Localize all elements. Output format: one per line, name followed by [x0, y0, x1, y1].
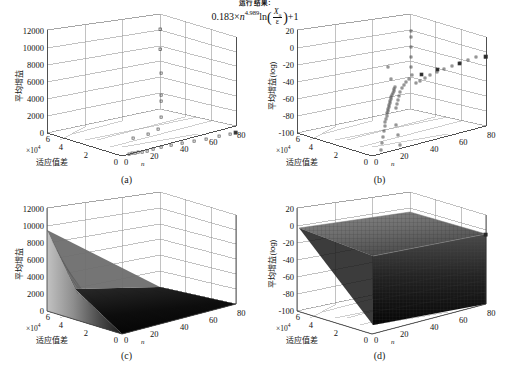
panel-a-caption: (a): [0, 174, 253, 185]
svg-text:6: 6: [46, 312, 50, 322]
svg-text:0: 0: [40, 306, 44, 316]
panel-d-ytick-labels: -100-80 -60-40 -200 20: [278, 204, 294, 316]
figure-root: 运行结果: 0.183×n4.989ln(X0ε)+1: [0, 0, 506, 366]
svg-text:60: 60: [209, 137, 218, 147]
svg-text:40: 40: [180, 144, 189, 154]
svg-text:2: 2: [334, 328, 338, 338]
svg-text:40: 40: [180, 322, 189, 332]
panel-b-mult-base: ×10: [276, 146, 288, 155]
svg-text:4000: 4000: [27, 94, 44, 104]
svg-text:6: 6: [46, 134, 50, 144]
svg-text:6: 6: [296, 312, 300, 322]
panel-c-caption: (c): [0, 350, 253, 361]
panel-b-ylabel: 平均增益(log): [266, 46, 277, 126]
svg-text:40: 40: [430, 322, 439, 332]
svg-text:60: 60: [459, 137, 468, 147]
panel-b-ytick-labels: -100-80 -60-40 -200 20: [278, 26, 294, 138]
panel-d-plot: -100-80 -60-40 -200 20 64 20 020 4060 80: [253, 190, 506, 350]
panel-c-ylabel: 平均增益: [13, 234, 24, 294]
panel-d: -100-80 -60-40 -200 20 64 20 020 4060 80…: [253, 190, 506, 366]
panel-a-ytick-labels: 02000 40006000 800010000 12000: [23, 26, 44, 138]
svg-text:0: 0: [124, 335, 128, 345]
panel-c-x-multiplier: ×104: [26, 322, 40, 333]
svg-text:0: 0: [374, 335, 378, 345]
panel-d-caption: (d): [253, 350, 506, 361]
panel-d-xlabel: 适应值差: [286, 334, 318, 345]
svg-text:20: 20: [150, 329, 159, 339]
svg-text:2: 2: [334, 150, 338, 160]
svg-text:2: 2: [84, 150, 88, 160]
svg-text:2000: 2000: [27, 289, 44, 299]
panel-a-zlabel: n: [141, 160, 145, 168]
svg-text:80: 80: [237, 308, 246, 318]
panel-b-xlabel: 适应值差: [286, 156, 318, 167]
panel-d-x-multiplier: ×104: [276, 322, 290, 333]
svg-text:-100: -100: [278, 306, 294, 316]
panel-b-mult-exp: 4: [288, 144, 291, 150]
svg-text:20: 20: [286, 26, 295, 36]
panel-b-plot: -100-80 -60-40 -200 20 64 20 020 4060 80: [253, 8, 506, 173]
svg-text:60: 60: [209, 315, 218, 325]
panel-c-mult-exp: 4: [38, 322, 41, 328]
svg-text:80: 80: [487, 130, 496, 140]
svg-text:40: 40: [430, 144, 439, 154]
svg-text:20: 20: [150, 151, 159, 161]
panel-a-ylabel: 平均增益: [13, 56, 24, 116]
panel-d-ylabel: 平均增益(log): [266, 224, 277, 304]
panel-a-xlabel: 适应值差: [36, 156, 68, 167]
svg-text:4: 4: [309, 320, 314, 330]
panel-b-zlabel: n: [391, 160, 395, 168]
svg-text:-40: -40: [283, 255, 294, 265]
figure-title-label: 运行结果:: [180, 0, 330, 7]
svg-text:0: 0: [114, 335, 118, 345]
svg-text:0: 0: [40, 128, 44, 138]
svg-text:0: 0: [374, 157, 378, 167]
panel-d-edge-markers: [484, 233, 487, 236]
panel-c-zlabel: n: [141, 338, 145, 346]
panel-d-mult-base: ×10: [276, 324, 288, 333]
svg-text:-40: -40: [283, 77, 294, 87]
svg-text:2: 2: [84, 328, 88, 338]
svg-text:0: 0: [364, 335, 368, 345]
svg-text:20: 20: [400, 329, 409, 339]
svg-text:0: 0: [290, 43, 294, 53]
panel-b: -100-80 -60-40 -200 20 64 20 020 4060 80: [253, 8, 506, 191]
svg-text:10000: 10000: [23, 43, 44, 53]
svg-text:6000: 6000: [27, 77, 44, 87]
svg-text:-20: -20: [283, 238, 294, 248]
svg-text:0: 0: [124, 157, 128, 167]
panel-a-x-multiplier: ×104: [26, 144, 40, 155]
panel-a: 02000 40006000 800010000 12000 64 20 020…: [0, 8, 253, 191]
svg-text:80: 80: [237, 130, 246, 140]
svg-text:0: 0: [114, 157, 118, 167]
panel-c-mult-base: ×10: [26, 324, 38, 333]
svg-text:4: 4: [59, 142, 64, 152]
svg-text:10000: 10000: [23, 221, 44, 231]
svg-text:6: 6: [296, 134, 300, 144]
svg-text:20: 20: [400, 151, 409, 161]
svg-text:-20: -20: [283, 60, 294, 70]
svg-text:8000: 8000: [27, 238, 44, 248]
panel-a-mult-base: ×10: [26, 146, 38, 155]
svg-text:-80: -80: [283, 111, 294, 121]
svg-text:4: 4: [309, 142, 314, 152]
panel-b-x-multiplier: ×104: [276, 144, 290, 155]
svg-text:-60: -60: [283, 94, 294, 104]
svg-text:4000: 4000: [27, 272, 44, 282]
panel-b-caption: (b): [253, 174, 506, 185]
svg-text:6000: 6000: [27, 255, 44, 265]
svg-text:0: 0: [290, 221, 294, 231]
svg-text:20: 20: [286, 204, 295, 214]
svg-text:12000: 12000: [23, 204, 44, 214]
panel-c: 02000 40006000 800010000 12000 64 20 020…: [0, 190, 253, 366]
panel-a-mult-exp: 4: [38, 144, 41, 150]
svg-text:80: 80: [487, 308, 496, 318]
svg-text:12000: 12000: [23, 26, 44, 36]
panel-c-ytick-labels: 02000 40006000 800010000 12000: [23, 204, 44, 316]
svg-text:60: 60: [459, 315, 468, 325]
svg-text:8000: 8000: [27, 60, 44, 70]
panel-d-zlabel: n: [391, 338, 395, 346]
panel-d-mult-exp: 4: [288, 322, 291, 328]
svg-text:0: 0: [364, 157, 368, 167]
svg-text:-60: -60: [283, 272, 294, 282]
